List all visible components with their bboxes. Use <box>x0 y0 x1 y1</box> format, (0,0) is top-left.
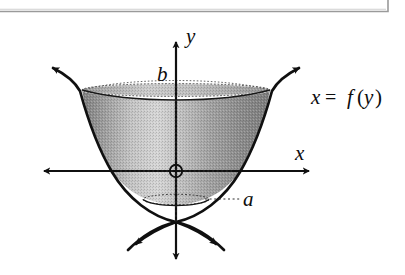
lower-bound-label-a: a <box>243 187 254 211</box>
curve-equation-label: x = f ( y ) <box>310 85 382 109</box>
curve-left-branch-lower-tail <box>176 222 216 244</box>
page-rule <box>0 0 388 12</box>
curve-label-close-paren: ) <box>375 85 382 109</box>
curve-label-equals: = <box>325 86 336 108</box>
curve-label-open-paren: ( <box>357 85 364 109</box>
curve-label-y: y <box>362 85 374 109</box>
y-axis-label: y <box>184 24 196 48</box>
solid-of-revolution-diagram: y x b a x = f ( y ) <box>0 0 405 275</box>
curve-right-branch-lower-tail <box>136 222 176 244</box>
figure-root: y x b a x = f ( y ) <box>0 0 405 275</box>
upper-bound-label-b: b <box>157 62 168 86</box>
x-axis-label: x <box>294 141 305 165</box>
curve-label-x: x <box>310 85 321 109</box>
curve-label-f: f <box>347 85 356 109</box>
